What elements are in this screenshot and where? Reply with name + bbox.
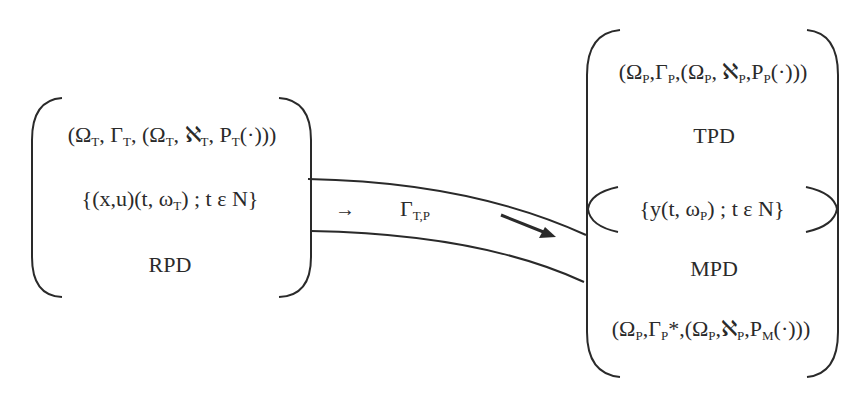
right-box-process: {y(t, ωP) ; t ε N} <box>640 198 785 222</box>
left-box-left-bracket <box>32 98 62 297</box>
inner-left-bracket <box>588 187 618 232</box>
right-box-top-tuple: (ΩP,ΓP,(ΩP, ℵP,PP(·))) <box>619 61 808 85</box>
channel-gamma-label: ΓT,P <box>400 198 430 222</box>
right-box-bottom-tuple: (ΩP,ΓP*,(ΩP,ℵP,PM(·))) <box>612 318 810 342</box>
right-box-label-tpd: TPD <box>693 125 735 147</box>
channel-bottom-line <box>311 231 584 282</box>
right-box-label-mpd: MPD <box>690 258 738 280</box>
left-box-tuple: (ΩT, ΓT, (ΩT, ℵT, PT(·))) <box>68 124 277 148</box>
left-box-right-bracket <box>279 98 311 297</box>
left-box-process: {(x,u)(t, ωT) ; t ε N} <box>82 188 259 212</box>
inner-right-bracket <box>806 187 837 232</box>
left-box-label-rpd: RPD <box>149 254 192 276</box>
right-box-right-bracket <box>807 30 838 377</box>
channel-small-arrow: → <box>335 199 355 219</box>
